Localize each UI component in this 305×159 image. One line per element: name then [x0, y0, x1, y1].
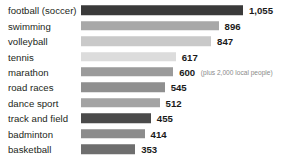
category-label: marathon	[8, 66, 49, 77]
bar-row: track and field455	[0, 111, 305, 126]
bar-row: dance sport512	[0, 95, 305, 110]
value-label: 847	[217, 36, 233, 47]
bar-row: road races545	[0, 80, 305, 95]
bar-row: volleyball847	[0, 33, 305, 48]
bar-row: swimming896	[0, 18, 305, 33]
bar	[81, 52, 176, 62]
category-label: badminton	[8, 128, 53, 139]
bar-chart: football (soccer)1,055swimming896volleyb…	[0, 0, 305, 159]
bar	[81, 36, 211, 46]
bar	[81, 144, 135, 154]
value-label: 414	[151, 128, 167, 139]
value-label: 545	[171, 82, 187, 93]
value-label: 600	[179, 66, 195, 77]
bar	[81, 83, 165, 93]
value-annotation: (plus 2,000 local people)	[201, 68, 273, 75]
bar-row: basketball353	[0, 142, 305, 157]
category-label: football (soccer)	[8, 5, 77, 16]
category-label: basketball	[8, 144, 51, 155]
value-label: 353	[141, 144, 157, 155]
bar	[81, 21, 219, 31]
value-label: 512	[166, 97, 182, 108]
bar-row: marathon600(plus 2,000 local people)	[0, 64, 305, 79]
category-label: road races	[8, 82, 54, 93]
bar-row: badminton414	[0, 126, 305, 141]
value-label: 617	[182, 51, 198, 62]
bar-row: football (soccer)1,055	[0, 3, 305, 18]
category-label: tennis	[8, 51, 34, 62]
bar	[81, 98, 160, 108]
value-label: 455	[157, 113, 173, 124]
bar	[81, 67, 173, 77]
category-label: track and field	[8, 113, 68, 124]
value-label: 896	[225, 20, 241, 31]
category-label: swimming	[8, 20, 51, 31]
value-label: 1,055	[249, 5, 273, 16]
bar-row: tennis617	[0, 49, 305, 64]
bar	[81, 5, 243, 15]
category-label: volleyball	[8, 36, 48, 47]
bar	[81, 129, 145, 139]
bar	[81, 114, 151, 124]
category-label: dance sport	[8, 97, 58, 108]
